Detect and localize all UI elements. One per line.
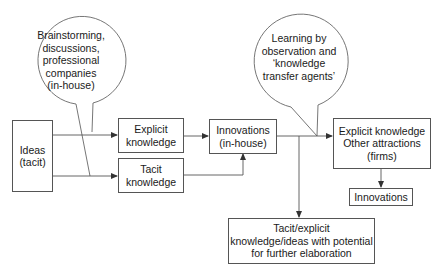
box-line: knowledge xyxy=(126,176,176,189)
box-line: for further elaboration xyxy=(230,247,372,260)
bubble-line: discussions, xyxy=(30,42,112,55)
box-line: (firms) xyxy=(339,150,425,163)
box-line: (in-house) xyxy=(216,137,270,150)
innovations-box: Innovations xyxy=(349,188,413,206)
bubble-line: companies xyxy=(30,67,112,80)
box-line: knowledge/ideas with potential xyxy=(230,235,372,248)
box-line: Innovations xyxy=(354,191,408,204)
ideas-box: Ideas (tacit) xyxy=(12,120,53,192)
explicit-knowledge-box: Explicit knowledge xyxy=(118,118,184,153)
box-line: Ideas xyxy=(19,144,45,157)
arrow-tacit-to-innovations xyxy=(183,154,243,175)
box-line: Explicit xyxy=(126,123,176,136)
brainstorming-bubble: Brainstorming, discussions, professional… xyxy=(30,29,112,92)
box-line: (tacit) xyxy=(19,156,45,169)
explicit-other-attractions-box: Explicit knowledge Other attractions (fi… xyxy=(333,118,431,169)
box-line: knowledge xyxy=(126,136,176,149)
bubble-line: observation and xyxy=(254,45,344,58)
tacit-explicit-potential-box: Tacit/explicit knowledge/ideas with pote… xyxy=(228,218,375,264)
innovations-inhouse-box: Innovations (in-house) xyxy=(209,119,277,154)
bubble-line: ‘knowledge xyxy=(254,57,344,70)
bubble-line: professional xyxy=(30,54,112,67)
bubble-line: Brainstorming, xyxy=(30,29,112,42)
bubble-line: transfer agents’ xyxy=(254,70,344,83)
tacit-knowledge-box: Tacit knowledge xyxy=(118,158,184,193)
box-line: Other attractions xyxy=(339,137,425,150)
bubble-line: Learning by xyxy=(254,32,344,45)
learning-bubble: Learning by observation and ‘knowledge t… xyxy=(254,32,344,82)
bubble-line: (in-house) xyxy=(30,79,112,92)
box-line: Explicit knowledge xyxy=(339,125,425,138)
box-line: Tacit xyxy=(126,163,176,176)
box-line: Tacit/explicit xyxy=(230,222,372,235)
box-line: Innovations xyxy=(216,124,270,137)
